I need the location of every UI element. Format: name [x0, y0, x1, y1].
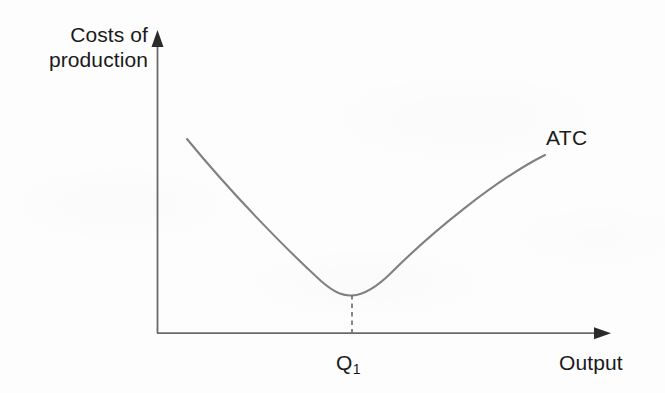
y-axis-label-line-2: production [0, 47, 148, 72]
y-axis-label-line-1: Costs of [0, 22, 148, 47]
y-axis-arrowhead-icon [152, 30, 164, 47]
x-axis-arrowhead-icon [594, 327, 611, 339]
y-axis-label: Costs of production [0, 22, 148, 72]
q1-label-subscript: 1 [353, 361, 361, 377]
x-axis-label: Output [559, 350, 623, 375]
atc-curve-label: ATC [546, 126, 588, 150]
q1-label-base: Q [336, 351, 352, 374]
q1-axis-label: Q1 [336, 351, 360, 375]
atc-curve-line [187, 139, 545, 296]
atc-cost-curve-figure: Costs of production Output ATC Q1 [0, 0, 665, 393]
